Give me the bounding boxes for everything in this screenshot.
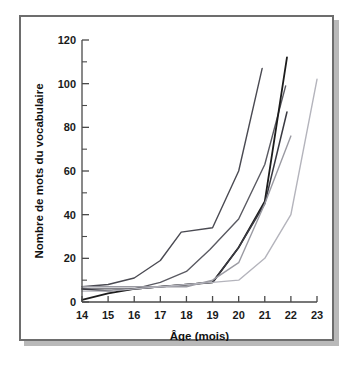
y-tick-label: 120 bbox=[58, 34, 76, 46]
x-tick-label: 22 bbox=[285, 309, 297, 321]
x-axis-title: Âge (mois) bbox=[170, 330, 230, 341]
y-tick-label: 100 bbox=[58, 78, 76, 90]
series-line-2 bbox=[82, 86, 286, 289]
x-tick-label: 20 bbox=[233, 309, 245, 321]
y-tick-label: 40 bbox=[64, 209, 76, 221]
axes-group bbox=[82, 40, 317, 302]
y-tick-label: 20 bbox=[64, 252, 76, 264]
series-line-1 bbox=[82, 68, 262, 286]
x-tick-label: 23 bbox=[311, 309, 323, 321]
x-tick-label: 16 bbox=[128, 309, 140, 321]
x-tick-label: 15 bbox=[102, 309, 114, 321]
series-line-4 bbox=[82, 112, 287, 291]
y-tick-label: 0 bbox=[70, 296, 76, 308]
x-tick-label: 17 bbox=[154, 309, 166, 321]
x-tick-label: 19 bbox=[206, 309, 218, 321]
series-group bbox=[82, 57, 317, 299]
figure-root: 020406080100120 14151617181920212223 Nom… bbox=[0, 0, 356, 370]
y-axis-tick-labels: 020406080100120 bbox=[58, 34, 76, 308]
x-tick-label: 14 bbox=[76, 309, 89, 321]
x-tick-label: 21 bbox=[259, 309, 271, 321]
x-axis-tick-labels: 14151617181920212223 bbox=[76, 309, 323, 321]
x-tick-label: 18 bbox=[180, 309, 192, 321]
x-axis-ticks bbox=[82, 296, 317, 302]
y-tick-label: 60 bbox=[64, 165, 76, 177]
y-axis-title: Nombre de mots du vocabulaire bbox=[33, 83, 45, 258]
vocabulary-growth-chart: 020406080100120 14151617181920212223 Nom… bbox=[19, 15, 334, 341]
y-tick-label: 80 bbox=[64, 121, 76, 133]
y-axis-ticks bbox=[82, 40, 89, 302]
